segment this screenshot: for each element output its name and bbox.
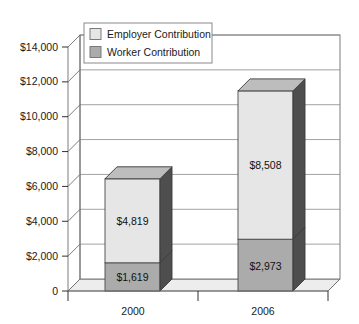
depth-2000 — [68, 244, 80, 256]
ytick-label-0: 0 — [52, 285, 58, 297]
ytick-label-4000: $4,000 — [26, 215, 58, 227]
ytick-label-12000: $12,000 — [20, 75, 58, 87]
bar-label-2006-worker: $2,973 — [249, 260, 281, 272]
left-wall-depth-lines — [68, 35, 80, 291]
bar-2006-top-face — [238, 79, 305, 91]
y-tick-marks — [62, 47, 68, 291]
ytick-label-14000: $14,000 — [20, 41, 58, 53]
chart-legend[interactable]: Employer Contribution Worker Contributio… — [84, 23, 212, 63]
bar-label-2006-employer: $8,508 — [249, 159, 281, 171]
depth-14000 — [68, 35, 80, 47]
legend-swatch-employer — [90, 29, 101, 40]
legend-item-employer[interactable]: Employer Contribution — [90, 28, 211, 40]
depth-8000 — [68, 140, 80, 152]
bar-label-2000-worker: $1,619 — [116, 271, 148, 283]
depth-10000 — [68, 105, 80, 117]
legend-label-worker: Worker Contribution — [107, 46, 200, 58]
xtick-label-2000: 2000 — [121, 305, 145, 317]
legend-item-worker[interactable]: Worker Contribution — [90, 46, 200, 58]
bar-2000-top-face — [105, 167, 172, 179]
xtick-label-2006: 2006 — [251, 305, 275, 317]
x-axis-labels: 2000 2006 — [121, 305, 275, 317]
ytick-label-8000: $8,000 — [26, 145, 58, 157]
ytick-label-2000: $2,000 — [26, 250, 58, 262]
bar-2000-employer-side — [160, 167, 172, 263]
legend-swatch-worker — [90, 47, 101, 58]
bar-label-2000-employer: $4,819 — [116, 215, 148, 227]
bar-2006-employer-side — [293, 79, 305, 239]
depth-6000 — [68, 174, 80, 186]
ytick-label-6000: $6,000 — [26, 180, 58, 192]
depth-12000 — [68, 70, 80, 82]
y-axis-labels: 0 $2,000 $4,000 $6,000 $8,000 $10,000 $1… — [20, 41, 58, 297]
chart-container: 0 $2,000 $4,000 $6,000 $8,000 $10,000 $1… — [0, 0, 359, 324]
bar-group-2000[interactable]: $4,819 $1,619 — [105, 167, 172, 291]
legend-label-employer: Employer Contribution — [107, 28, 211, 40]
depth-4000 — [68, 209, 80, 221]
bar-group-2006[interactable]: $8,508 $2,973 — [238, 79, 305, 291]
ytick-label-10000: $10,000 — [20, 110, 58, 122]
stacked-column-chart-3d: 0 $2,000 $4,000 $6,000 $8,000 $10,000 $1… — [0, 0, 359, 324]
